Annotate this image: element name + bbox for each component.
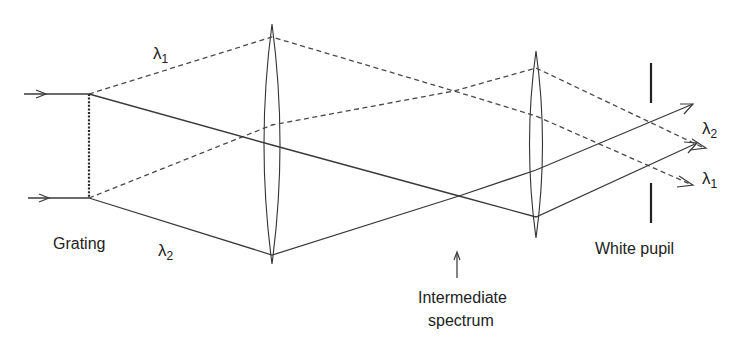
- dashed-rays: [89, 37, 706, 198]
- spectrograph-diagram: λ1 λ2 λ2 λ1 Grating White pupil Intermed…: [0, 0, 750, 351]
- label-lambda2-bottom: λ2: [158, 241, 174, 263]
- label-lambda2-out: λ2: [702, 119, 718, 141]
- solid-ray-bottom: [89, 104, 693, 255]
- label-lambda1-top: λ1: [153, 44, 169, 66]
- label-white-pupil: White pupil: [595, 240, 674, 257]
- label-grating: Grating: [53, 235, 105, 252]
- input-beams: [24, 90, 89, 202]
- solid-rays: [89, 94, 697, 255]
- label-spectrum: spectrum: [428, 312, 494, 329]
- lens-2: [530, 51, 543, 238]
- solid-ray-top: [89, 94, 697, 217]
- label-lambda1-out: λ1: [702, 169, 718, 191]
- label-intermediate: Intermediate: [418, 289, 507, 306]
